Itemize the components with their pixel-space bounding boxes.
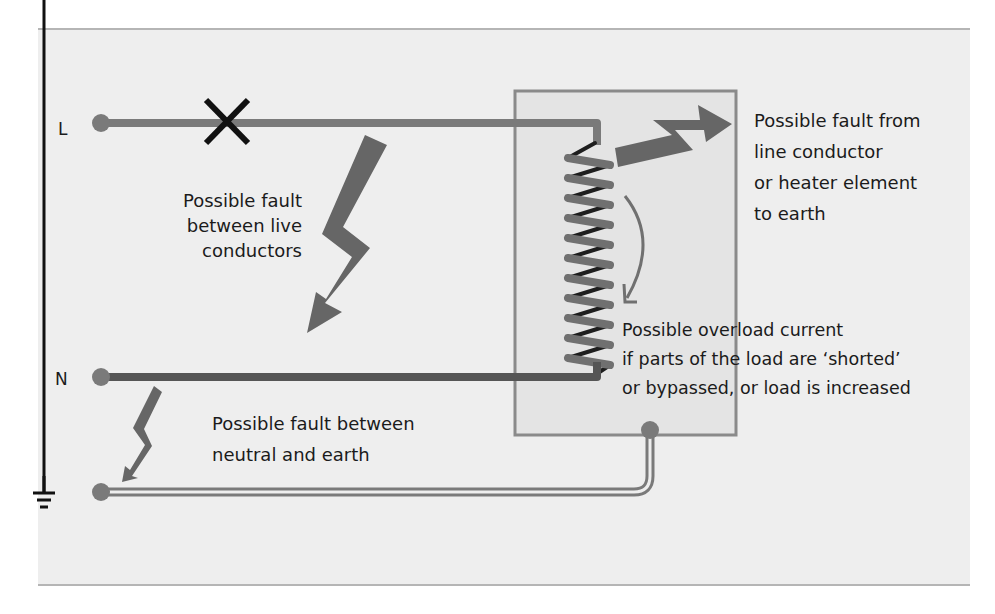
fault-arrow-live-conductors-icon bbox=[307, 135, 387, 333]
label-line: or heater element bbox=[754, 170, 921, 195]
label-line: or bypassed, or load is increased bbox=[622, 374, 911, 403]
label-line: conductors bbox=[150, 238, 302, 263]
label-fault-live-conductors: Possible fault between live conductors bbox=[150, 188, 302, 263]
label-line: to earth bbox=[754, 201, 921, 226]
line-terminal-dot bbox=[92, 114, 110, 132]
label-overload-current: Possible overload current if parts of th… bbox=[622, 316, 911, 403]
label-line: Possible fault between bbox=[212, 408, 415, 439]
label-line: Possible overload current bbox=[622, 316, 911, 345]
terminal-label-neutral: N bbox=[55, 367, 68, 392]
label-fault-to-earth: Possible fault from line conductor or he… bbox=[754, 108, 921, 226]
circuit-diagram bbox=[0, 0, 995, 614]
label-line: neutral and earth bbox=[212, 439, 415, 470]
label-line: Possible fault bbox=[150, 188, 302, 213]
earth-terminal-dot bbox=[92, 483, 110, 501]
label-line: Possible fault from bbox=[754, 108, 921, 133]
enclosure-earth-connection-dot bbox=[641, 421, 659, 439]
terminal-label-line: L bbox=[58, 117, 67, 142]
neutral-terminal-dot bbox=[92, 368, 110, 386]
earth-symbol-icon bbox=[33, 0, 55, 507]
label-line: between live bbox=[150, 213, 302, 238]
label-line: line conductor bbox=[754, 139, 921, 164]
label-line: if parts of the load are ‘shorted’ bbox=[622, 345, 911, 374]
fault-arrow-neutral-earth-icon bbox=[122, 386, 162, 482]
label-fault-neutral-earth: Possible fault between neutral and earth bbox=[212, 408, 415, 470]
